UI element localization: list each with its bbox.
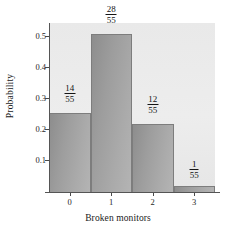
x-tick-label-0: 0 [68,197,72,207]
bar-value-denominator-1: 55 [106,15,117,25]
bar-value-label-2: 12 55 [147,95,158,115]
y-axis-tick-labels: 0.1 0.2 0.3 0.4 0.5 [18,0,46,236]
x-tick-label-3: 3 [192,197,196,207]
x-tick-label-2: 2 [151,197,155,207]
bar-1 [91,34,133,192]
bar-0 [49,113,91,192]
bar-value-denominator-3: 55 [190,170,199,180]
x-tick-label-1: 1 [109,197,113,207]
bar-value-numerator-1: 28 [106,5,117,15]
bar-value-numerator-0: 14 [64,84,75,94]
bar-value-numerator-3: 1 [190,160,199,170]
y-tick-label-3: 0.4 [20,63,46,72]
bar-value-denominator-2: 55 [147,105,158,115]
y-axis-title-text: Probability [5,74,15,118]
bar-value-denominator-0: 55 [64,94,75,104]
y-tick-label-0: 0.1 [20,156,46,165]
y-axis-title: Probability [2,0,18,192]
bar-value-label-0: 14 55 [64,84,75,104]
bar-value-label-3: 1 55 [190,160,199,180]
y-tick-label-1: 0.2 [20,125,46,134]
bar-value-numerator-2: 12 [147,95,158,105]
y-axis-spine [49,23,50,193]
x-axis-spine [45,192,220,193]
y-tick-label-4: 0.5 [20,32,46,41]
bar-value-label-1: 28 55 [106,5,117,25]
bar-2 [132,124,174,192]
probability-bar-chart: Probability 0.1 0.2 0.3 0.4 0.5 14 55 28 [0,0,236,236]
y-tick-label-2: 0.3 [20,94,46,103]
x-axis-title: Broken monitors [0,213,236,223]
